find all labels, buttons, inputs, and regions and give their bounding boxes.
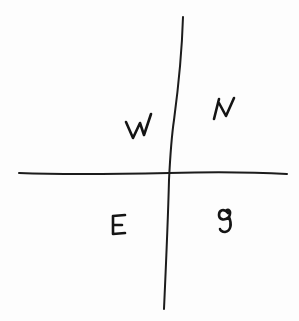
horizontal-axis-line [19, 172, 287, 174]
glyph-g [219, 210, 231, 232]
glyph-e [113, 215, 125, 234]
vertical-axis-line [164, 17, 183, 309]
glyph-w [126, 114, 151, 138]
glyph-n-reversed [214, 98, 234, 119]
quadrant-diagram [0, 0, 299, 321]
drawing-canvas: W IV E g [0, 0, 299, 321]
